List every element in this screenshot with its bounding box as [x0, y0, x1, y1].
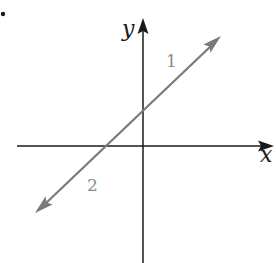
x-axis-label: x — [260, 142, 273, 167]
y-axis — [138, 18, 149, 263]
bullet-dot — [1, 12, 5, 16]
y-axis-label: y — [121, 16, 135, 41]
linear-boundary-line — [35, 36, 221, 213]
coordinate-plane-diagram: y x 1 2 — [0, 0, 276, 263]
region-label-1: 1 — [166, 51, 177, 71]
x-axis — [17, 141, 274, 152]
region-label-2: 2 — [87, 175, 98, 195]
